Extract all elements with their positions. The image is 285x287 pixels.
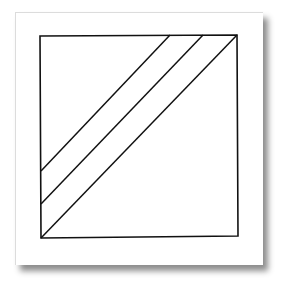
diagonal-line-3 (41, 35, 237, 238)
diagonal-line-1 (41, 35, 170, 171)
square-diagram (0, 0, 285, 287)
diagonal-lines (41, 35, 237, 238)
diagonal-line-2 (41, 35, 203, 204)
diagram-stage (0, 0, 285, 287)
